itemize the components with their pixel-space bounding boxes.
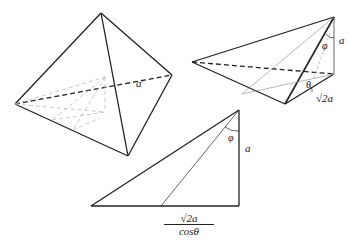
triangle-height-label: a bbox=[245, 142, 251, 154]
triangle-phi-label: φ bbox=[228, 132, 234, 143]
pyramid-phi-label: φ bbox=[322, 40, 328, 51]
triangle-base-fraction: √2a cosθ bbox=[164, 212, 214, 237]
pyramid-base-label: √2a bbox=[316, 92, 333, 104]
fraction-denominator: cosθ bbox=[164, 225, 214, 237]
tetra-edge-label: a bbox=[136, 77, 142, 89]
fraction-numerator: √2a bbox=[164, 212, 214, 225]
triangle-figure bbox=[91, 110, 239, 206]
pyramid-theta-label: θ bbox=[306, 79, 311, 90]
tetrahedron-figure bbox=[15, 13, 172, 156]
pyramid-figure bbox=[192, 17, 334, 104]
pyramid-height-label: a bbox=[339, 34, 345, 46]
